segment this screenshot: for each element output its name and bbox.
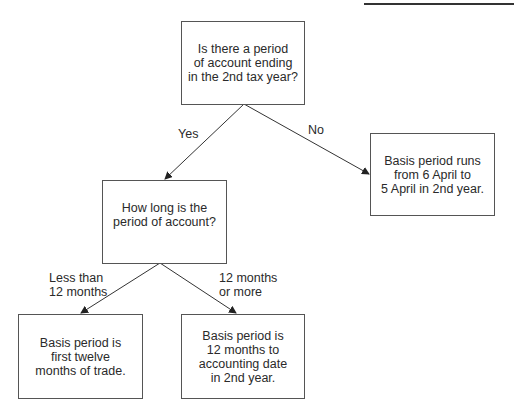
outcome-accounting-date-text: Basis period is 12 months to accounting … bbox=[199, 329, 287, 385]
edge-label-yes: Yes bbox=[178, 127, 198, 141]
edge-label-twelve-or-more: 12 months or more bbox=[219, 271, 277, 299]
question-length-box: How long is the period of account? bbox=[102, 180, 227, 264]
outcome-april-box: Basis period runs from 6 April to 5 Apri… bbox=[370, 133, 495, 216]
question-period-ending-box: Is there a period of account ending in t… bbox=[181, 21, 305, 105]
edge-label-no: No bbox=[308, 123, 324, 137]
outcome-april-text: Basis period runs from 6 April to 5 Apri… bbox=[381, 154, 484, 196]
outcome-accounting-date-box: Basis period is 12 months to accounting … bbox=[181, 314, 305, 399]
outcome-first-twelve-text: Basis period is first twelve months of t… bbox=[35, 336, 125, 378]
outcome-first-twelve-box: Basis period is first twelve months of t… bbox=[18, 314, 143, 399]
edge-label-less-than: Less than 12 months bbox=[49, 271, 107, 299]
question-length-text: How long is the period of account? bbox=[113, 201, 216, 229]
question-period-ending-text: Is there a period of account ending in t… bbox=[188, 42, 298, 84]
